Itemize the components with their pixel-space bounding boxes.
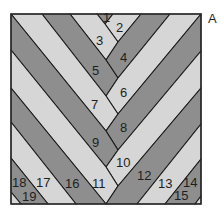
piece-label-13: 13 [158,176,172,191]
piece-label-1: 1 [103,10,110,25]
piece-label-10: 10 [116,155,130,170]
piece-label-18: 18 [12,175,26,190]
piece-label-6: 6 [120,85,127,100]
piece-label-17: 17 [36,175,50,190]
piece-label-19: 19 [22,189,36,204]
piece-label-15: 15 [174,188,188,203]
piece-label-9: 9 [92,135,99,150]
piece-label-2: 2 [116,20,123,35]
piece-label-12: 12 [137,168,151,183]
piece-label-7: 7 [91,97,98,112]
piece-label-11: 11 [92,176,106,191]
piece-label-4: 4 [120,50,127,65]
diagram-title-label: A [208,11,217,26]
piece-label-5: 5 [92,63,99,78]
piece-label-3: 3 [96,33,103,48]
quilt-block-diagram: 12345678910111213141516171819 A [0,0,221,211]
piece-label-16: 16 [65,176,79,191]
piece-label-8: 8 [120,120,127,135]
